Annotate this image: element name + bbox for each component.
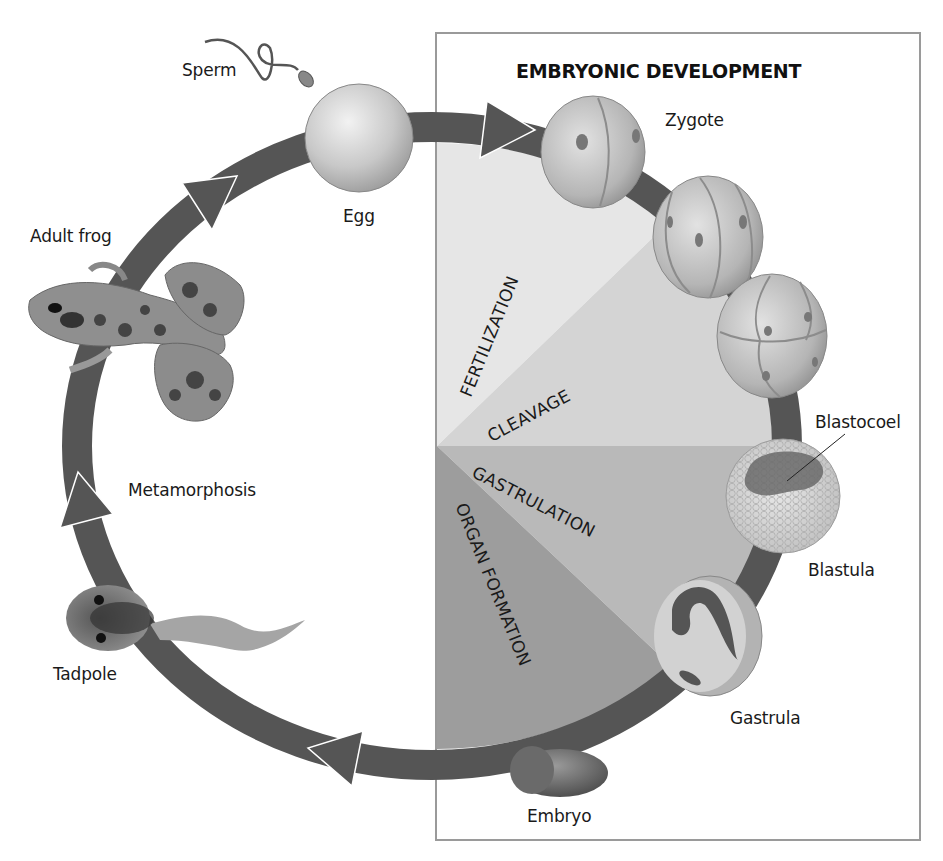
blastula-illustration	[726, 439, 840, 553]
label-metamorphosis: Metamorphosis	[128, 480, 256, 500]
label-adult-frog: Adult frog	[30, 226, 111, 246]
label-blastula: Blastula	[808, 560, 875, 580]
eight-cell-stage-illustration	[717, 274, 827, 398]
frog-life-cycle-diagram: EMBRYONIC DEVELOPMENT Sperm Egg Zygote B…	[0, 0, 943, 861]
label-blastocoel: Blastocoel	[815, 412, 901, 432]
gastrula-illustration	[654, 576, 762, 696]
label-zygote: Zygote	[665, 110, 724, 130]
tadpole-illustration	[66, 585, 305, 651]
egg-illustration	[305, 84, 413, 192]
label-embryo: Embryo	[527, 806, 591, 826]
label-tadpole: Tadpole	[53, 664, 117, 684]
label-gastrula: Gastrula	[730, 708, 800, 728]
diagram-title: EMBRYONIC DEVELOPMENT	[516, 60, 801, 82]
four-cell-stage-illustration	[653, 176, 763, 298]
label-sperm: Sperm	[182, 60, 236, 80]
label-egg: Egg	[343, 206, 375, 226]
zygote-illustration	[541, 96, 645, 208]
